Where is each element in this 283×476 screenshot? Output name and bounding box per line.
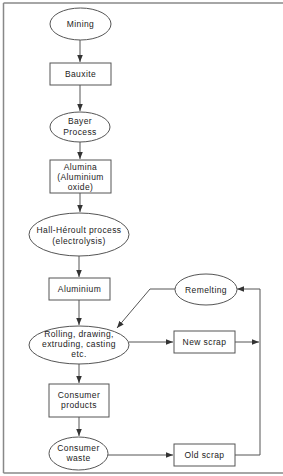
node-rolling: Rolling, drawing, extruding, casting etc… (29, 326, 129, 364)
node-label: Rolling, drawing, (44, 329, 114, 339)
node-aluminium: Aluminium (49, 278, 110, 300)
node-alumina: Alumina (Aluminium oxide) (50, 160, 111, 193)
flowchart: Mining Bauxite Bayer Process Alumina (Al… (0, 0, 283, 476)
node-label: Bauxite (65, 69, 96, 79)
edge-oldscrap-remelting (235, 289, 260, 455)
node-label: (electrolysis) (52, 236, 105, 246)
node-consumer-products: Consumer products (49, 384, 109, 417)
node-label: Remelting (185, 285, 227, 295)
node-consumer-waste: Consumer waste (49, 437, 108, 470)
node-label: Consumer (57, 443, 99, 453)
node-label: Hall-Héroult process (37, 225, 122, 235)
node-bayer-process: Bayer Process (50, 112, 110, 142)
node-new-scrap: New scrap (174, 331, 235, 353)
node-hall-heroult: Hall-Héroult process (electrolysis) (29, 213, 129, 256)
node-label: Alumina (64, 162, 98, 172)
node-label: New scrap (183, 337, 227, 347)
node-label: Mining (67, 19, 94, 29)
node-label: Aluminium (58, 284, 101, 294)
node-remelting: Remelting (175, 274, 237, 305)
node-label: waste (65, 453, 90, 463)
node-label: etc. (71, 349, 86, 359)
node-bauxite: Bauxite (50, 63, 111, 85)
node-mining: Mining (50, 8, 111, 40)
node-label: Process (63, 127, 97, 137)
node-label: (Aluminium (57, 172, 104, 182)
node-label: extruding, casting (42, 339, 116, 349)
node-label: Bayer (68, 116, 92, 126)
node-old-scrap: Old scrap (174, 444, 235, 466)
node-label: oxide) (68, 182, 94, 192)
node-label: products (61, 400, 97, 410)
node-label: Consumer (58, 390, 100, 400)
node-label: Old scrap (185, 450, 225, 460)
edge-remelting-rolling (117, 289, 175, 328)
